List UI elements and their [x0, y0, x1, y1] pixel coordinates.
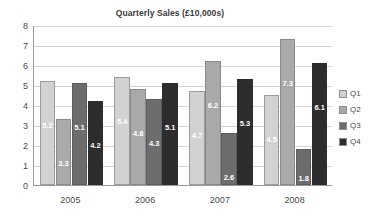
bar-value-label: 5.1: [163, 124, 177, 132]
bar-q1-2007[interactable]: 4.7: [189, 91, 205, 185]
x-axis-tick-label: 2008: [257, 195, 332, 205]
bar-value-label: 3.3: [57, 160, 71, 168]
bar-q2-2008[interactable]: 7.3: [280, 39, 296, 185]
bar-q2-2005[interactable]: 3.3: [56, 119, 72, 185]
bar-q2-2006[interactable]: 4.8: [130, 89, 146, 185]
bar-value-label: 5.4: [115, 118, 129, 126]
bar-value-label: 1.8: [297, 175, 311, 183]
chart-title: Quarterly Sales (£10,000s): [0, 8, 340, 18]
legend-item-q1[interactable]: Q1: [339, 86, 378, 102]
bar-value-label: 4.5: [265, 136, 279, 144]
y-axis-tick-label: 6: [5, 61, 28, 71]
y-axis-tick-label: 8: [5, 21, 28, 31]
bar-value-label: 5.1: [73, 124, 87, 132]
bar-value-label: 2.6: [222, 174, 236, 182]
y-axis-tick-label: 5: [5, 81, 28, 91]
legend-label: Q1: [350, 90, 361, 98]
bar-q3-2005[interactable]: 5.1: [72, 83, 88, 185]
legend-swatch-icon: [339, 122, 347, 130]
bar-q3-2006[interactable]: 4.3: [146, 99, 162, 185]
x-axis-tick-label: 2006: [108, 195, 183, 205]
bar-q3-2008[interactable]: 1.8: [296, 149, 312, 185]
legend-label: Q3: [350, 122, 361, 130]
bar-group: 5.44.84.35.1: [109, 26, 184, 185]
bar-group: 4.76.22.65.3: [184, 26, 259, 185]
y-axis-tick-label: 4: [5, 101, 28, 111]
y-axis-tick-label: 7: [5, 41, 28, 51]
legend-item-q3[interactable]: Q3: [339, 118, 378, 134]
legend-swatch-icon: [339, 106, 347, 114]
bar-value-label: 7.3: [281, 80, 295, 88]
bar-value-label: 4.2: [89, 142, 103, 150]
legend-item-q4[interactable]: Q4: [339, 134, 378, 150]
bar-q4-2008[interactable]: 6.1: [312, 63, 328, 185]
legend-label: Q2: [350, 106, 361, 114]
bar-q3-2007[interactable]: 2.6: [221, 133, 237, 185]
y-axis-tick-label: 1: [5, 161, 28, 171]
bar-chart: Quarterly Sales (£10,000s) 012345678 5.2…: [0, 0, 378, 220]
y-axis-tick-label: 0: [5, 181, 28, 191]
bar-q1-2006[interactable]: 5.4: [114, 77, 130, 185]
bar-group: 4.57.31.86.1: [258, 26, 333, 185]
plot-area: 5.23.35.14.25.44.84.35.14.76.22.65.34.57…: [33, 26, 332, 186]
bar-q2-2007[interactable]: 6.2: [205, 61, 221, 185]
bar-value-label: 6.1: [313, 104, 327, 112]
y-axis-tick-label: 3: [5, 121, 28, 131]
legend-swatch-icon: [339, 138, 347, 146]
bar-value-label: 4.7: [190, 132, 204, 140]
legend-item-q2[interactable]: Q2: [339, 102, 378, 118]
bar-q1-2008[interactable]: 4.5: [264, 95, 280, 185]
bar-group: 5.23.35.14.2: [34, 26, 109, 185]
x-axis-tick-label: 2007: [183, 195, 258, 205]
bar-value-label: 6.2: [206, 102, 220, 110]
bar-value-label: 4.3: [147, 140, 161, 148]
bar-q4-2007[interactable]: 5.3: [237, 79, 253, 185]
bar-q4-2006[interactable]: 5.1: [162, 83, 178, 185]
bar-value-label: 5.3: [238, 120, 252, 128]
chart-legend: Q1Q2Q3Q4: [339, 86, 378, 150]
legend-label: Q4: [350, 138, 361, 146]
x-axis-tick-label: 2005: [33, 195, 108, 205]
bar-q1-2005[interactable]: 5.2: [40, 81, 56, 185]
bar-q4-2005[interactable]: 4.2: [88, 101, 104, 185]
y-axis-tick-label: 2: [5, 141, 28, 151]
bar-value-label: 5.2: [41, 122, 55, 130]
bar-value-label: 4.8: [131, 130, 145, 138]
legend-swatch-icon: [339, 90, 347, 98]
